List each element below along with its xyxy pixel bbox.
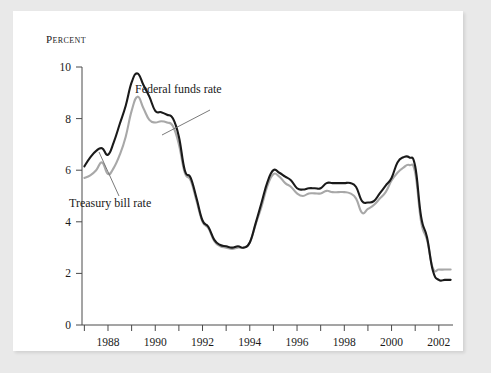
y-axis-title: Percent — [46, 33, 86, 45]
series-line-federal-funds-rate — [84, 73, 450, 280]
figure-frame: 0246810 19881990199219941996199820002002… — [0, 0, 491, 373]
x-tick-label: 1994 — [238, 336, 261, 348]
rates-line-chart: 0246810 19881990199219941996199820002002… — [13, 11, 463, 351]
treasury-bill-leader-line — [99, 152, 119, 196]
x-tick-group: 19881990199219941996199820002002 — [84, 325, 450, 348]
x-tick-label: 1996 — [286, 336, 309, 348]
chart-panel: 0246810 19881990199219941996199820002002… — [13, 11, 463, 351]
x-tick-label: 2000 — [380, 336, 403, 348]
federal-funds-rate-label: Federal funds rate — [135, 82, 222, 96]
x-tick-label: 1990 — [144, 336, 167, 348]
x-tick-label: 1998 — [333, 336, 356, 348]
y-tick-label: 10 — [60, 61, 72, 73]
y-tick-label: 4 — [65, 216, 71, 228]
y-tick-label: 0 — [65, 319, 71, 331]
y-tick-label: 2 — [65, 267, 71, 279]
x-tick-label: 1988 — [96, 336, 119, 348]
x-tick-label: 2002 — [427, 336, 450, 348]
series-group — [84, 73, 450, 280]
treasury-bill-rate-label: Treasury bill rate — [69, 196, 151, 210]
y-tick-label: 8 — [65, 113, 71, 125]
x-tick-label: 1992 — [191, 336, 214, 348]
y-tick-label: 6 — [65, 164, 71, 176]
